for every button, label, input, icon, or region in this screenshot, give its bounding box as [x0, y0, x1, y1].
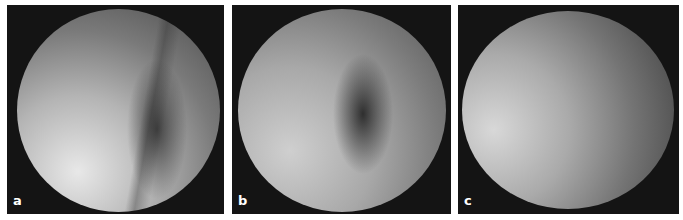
panel-b: b: [232, 5, 451, 214]
panel-label-a: a: [13, 194, 22, 207]
endoscopic-view-a: [17, 9, 220, 212]
panel-label-c: c: [464, 194, 472, 207]
panel-label-b: b: [238, 194, 247, 207]
endoscopic-view-b: [238, 9, 446, 212]
endoscopic-view-c: [462, 11, 674, 209]
panel-a: a: [7, 5, 224, 214]
panel-c: c: [458, 5, 679, 214]
